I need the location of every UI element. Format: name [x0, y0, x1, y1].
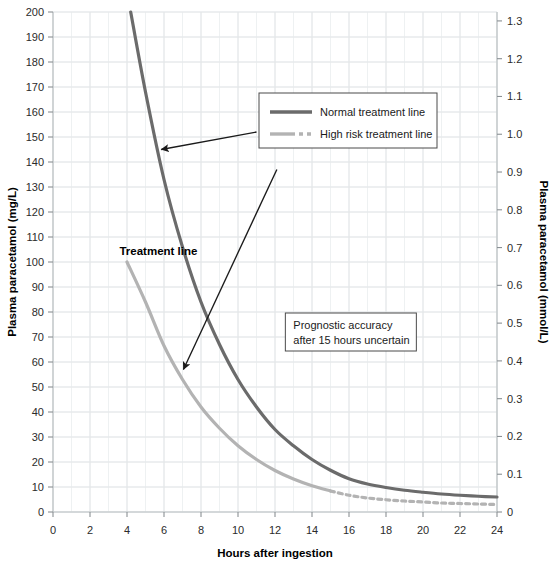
legend-label: Normal treatment line	[320, 106, 425, 118]
y-tick-label: 70	[32, 331, 44, 343]
y-tick-label-right: 0.5	[507, 317, 522, 329]
prognostic-note-line: Prognostic accuracy	[293, 319, 393, 331]
x-tick-label: 24	[491, 524, 503, 536]
y-tick-label-right: 0.7	[507, 242, 522, 254]
y-tick-label: 160	[26, 106, 44, 118]
y-tick-label: 40	[32, 406, 44, 418]
y-tick-label: 190	[26, 31, 44, 43]
y-tick-label-right: 0.4	[507, 355, 522, 367]
y-tick-label: 140	[26, 156, 44, 168]
x-tick-label: 0	[50, 524, 56, 536]
y-tick-label: 170	[26, 81, 44, 93]
x-tick-label: 16	[343, 524, 355, 536]
y-tick-label: 110	[26, 231, 44, 243]
x-tick-label: 22	[454, 524, 466, 536]
y-tick-label: 20	[32, 456, 44, 468]
prognostic-note-line: after 15 hours uncertain	[293, 334, 409, 346]
y-tick-label: 30	[32, 431, 44, 443]
y-tick-label-right: 0.9	[507, 166, 522, 178]
y-tick-label: 60	[32, 356, 44, 368]
y-axis-title-right: Plasma paracetamol (mmol/L)	[538, 181, 550, 344]
x-tick-label: 18	[380, 524, 392, 536]
y-tick-label: 130	[26, 181, 44, 193]
x-tick-label: 8	[198, 524, 204, 536]
treatment-line-label: Treatment line	[119, 245, 197, 257]
y-tick-label-right: 1.0	[507, 128, 522, 140]
y-tick-label-right: 1.1	[507, 90, 522, 102]
y-tick-label-right: 0.8	[507, 204, 522, 216]
y-tick-label-right: 0.1	[507, 468, 522, 480]
x-tick-label: 6	[161, 524, 167, 536]
y-tick-label: 50	[32, 381, 44, 393]
y-tick-label-right: 0.2	[507, 430, 522, 442]
y-tick-label: 150	[26, 131, 44, 143]
x-tick-label: 14	[306, 524, 318, 536]
legend-label: High risk treatment line	[320, 128, 433, 140]
y-tick-label-right: 0.6	[507, 279, 522, 291]
x-tick-label: 12	[269, 524, 281, 536]
y-tick-label: 0	[38, 506, 44, 518]
paracetamol-nomogram-chart: 0102030405060708090100110120130140150160…	[0, 0, 554, 578]
x-tick-label: 20	[417, 524, 429, 536]
y-tick-label: 200	[26, 6, 44, 18]
y-tick-label: 80	[32, 306, 44, 318]
x-tick-label: 10	[232, 524, 244, 536]
y-axis-title: Plasma paracetamol (mg/L)	[6, 187, 18, 337]
x-axis-title: Hours after ingestion	[217, 547, 333, 559]
y-tick-label-right: 1.3	[507, 15, 522, 27]
y-tick-label: 100	[26, 256, 44, 268]
y-tick-label: 180	[26, 56, 44, 68]
y-tick-label-right: 1.2	[507, 53, 522, 65]
y-tick-label: 10	[32, 481, 44, 493]
y-tick-label-right: 0	[507, 506, 513, 518]
chart-canvas: 0102030405060708090100110120130140150160…	[0, 0, 554, 578]
x-tick-label: 4	[124, 524, 130, 536]
y-tick-label-right: 0.3	[507, 393, 522, 405]
grid-major	[53, 12, 497, 512]
y-tick-label: 120	[26, 206, 44, 218]
y-tick-label: 90	[32, 281, 44, 293]
x-tick-label: 2	[87, 524, 93, 536]
